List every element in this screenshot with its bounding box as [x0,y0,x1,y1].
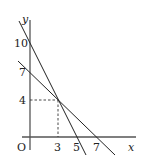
origin-label: O [17,141,26,154]
y-tick-4: 4 [19,94,26,107]
coordinate-diagram: y x O 10 7 4 3 5 7 [0,0,148,165]
x-tick-5: 5 [73,141,80,154]
x-tick-3: 3 [54,141,61,154]
y-tick-10: 10 [14,37,28,50]
y-tick-7: 7 [19,66,26,79]
line-2x-plus-y-eq-10 [19,21,86,155]
x-axis-label: x [128,141,135,154]
x-tick-7: 7 [93,141,100,154]
line-x-plus-y-eq-7 [18,61,115,155]
y-axis-label: y [21,13,29,26]
